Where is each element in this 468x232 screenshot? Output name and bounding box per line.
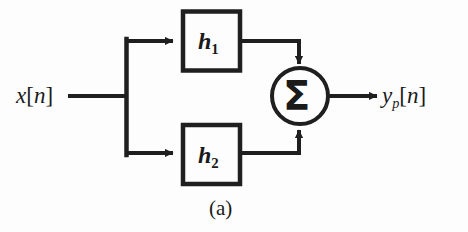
wire-h1-to-adder: [240, 41, 299, 64]
input-index: n: [34, 83, 46, 108]
output-bracket-close: ]: [419, 83, 427, 108]
block-diagram-canvas: [0, 0, 468, 232]
output-signal-base: y: [382, 83, 392, 108]
input-bracket-open: [: [26, 83, 34, 108]
output-index: n: [407, 83, 419, 108]
input-bracket-close: ]: [45, 83, 53, 108]
wire-h2-to-adder: [240, 130, 299, 153]
sigma-icon: Σ: [283, 76, 310, 116]
output-signal-subscript: p: [392, 95, 399, 111]
block-h1-label: h1: [198, 29, 219, 53]
block-h1-base: h: [198, 28, 211, 54]
input-signal-base: x: [16, 83, 26, 108]
block-h1-subscript: 1: [211, 41, 218, 57]
block-h2-subscript: 2: [211, 155, 218, 171]
output-bracket-open: [: [399, 83, 407, 108]
block-h2-label: h2: [198, 143, 219, 167]
input-signal-label: x[n]: [16, 84, 53, 107]
output-signal-label: yp[n]: [382, 84, 426, 107]
figure-parallel-connection: x[n] yp[n] h1 h2 Σ (a): [0, 0, 468, 232]
figure-caption: (a): [209, 198, 232, 219]
block-h2-base: h: [198, 142, 211, 168]
